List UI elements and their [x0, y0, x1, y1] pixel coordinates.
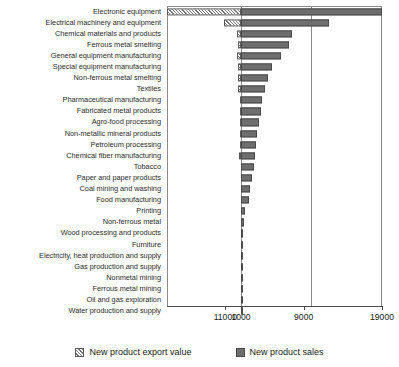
bar-row: Water production and supply: [0, 306, 399, 317]
bar-product-sales: [241, 185, 250, 192]
bar-product-sales: [241, 197, 249, 204]
bar-row: Non-ferrous metal: [0, 217, 399, 228]
category-label: Non-ferrous metal: [103, 218, 161, 226]
bar-product-sales: [241, 141, 256, 148]
bar-row: Nonmetal mining: [0, 272, 399, 283]
category-label: Food manufacturing: [96, 196, 161, 204]
legend-swatch-solid-icon: [236, 348, 245, 357]
bar-export-value: [167, 8, 241, 15]
legend-item-sales: New product sales: [236, 347, 324, 357]
legend-swatch-hatch-icon: [75, 348, 84, 357]
x-tick-label: 1000: [231, 312, 250, 322]
bar-row: Coal mining and washing: [0, 184, 399, 195]
bar-product-sales: [241, 30, 292, 37]
x-tick: [382, 306, 383, 310]
category-label: Tobacco: [134, 163, 161, 171]
bar-row: Electricity, heat production and supply: [0, 250, 399, 261]
x-axis-line: [167, 306, 382, 307]
bar-row: Paper and paper products: [0, 172, 399, 183]
x-tick-label: 19000: [370, 312, 394, 322]
bar-row: Chemical materials and products: [0, 28, 399, 39]
x-tick-label: 9000: [294, 312, 313, 322]
category-label: Paper and paper products: [77, 174, 161, 182]
x-tick: [225, 306, 226, 310]
legend-label-sales: New product sales: [250, 347, 324, 357]
bar-row: Furniture: [0, 239, 399, 250]
category-label: Agro-food processing: [92, 118, 161, 126]
bar-product-sales: [241, 86, 265, 93]
bar-product-sales: [241, 52, 281, 59]
bar-row: Chemical fiber manufacturing: [0, 150, 399, 161]
category-label: Furniture: [132, 241, 161, 249]
bar-product-sales: [241, 8, 382, 15]
bar-row: Pharmaceutical manufacturing: [0, 95, 399, 106]
bar-row: Ferrous metal mining: [0, 283, 399, 294]
bar-product-sales: [241, 41, 289, 48]
bar-chart: Electronic equipmentElectrical machinery…: [0, 0, 399, 367]
bar-product-sales: [241, 274, 243, 281]
category-label: Printing: [136, 207, 161, 215]
bar-row: Fabricated metal products: [0, 106, 399, 117]
bar-product-sales: [241, 252, 243, 259]
category-label: Pharmaceutical manufacturing: [63, 96, 161, 104]
category-label: General equipment manufacturing: [51, 52, 161, 60]
bar-row: Tobacco: [0, 161, 399, 172]
bar-row: Wood processing and products: [0, 228, 399, 239]
category-label: Ferrous metal mining: [93, 285, 161, 293]
plot-area: Electronic equipmentElectrical machinery…: [0, 0, 399, 340]
category-label: Chemical fiber manufacturing: [66, 152, 161, 160]
category-label: Fabricated metal products: [77, 107, 161, 115]
category-label: Textiles: [137, 85, 161, 93]
category-label: Ferrous metal smelting: [87, 41, 161, 49]
bar-product-sales: [241, 108, 261, 115]
bar-product-sales: [241, 174, 252, 181]
bar-product-sales: [241, 75, 268, 82]
bar-row: Electrical machinery and equipment: [0, 17, 399, 28]
category-label: Non-metallic mineral products: [65, 130, 161, 138]
bar-product-sales: [241, 241, 243, 248]
bar-product-sales: [241, 230, 243, 237]
bar-row: Food manufacturing: [0, 195, 399, 206]
bar-row: Electronic equipment: [0, 6, 399, 17]
bar-product-sales: [241, 119, 259, 126]
bar-product-sales: [241, 219, 244, 226]
category-label: Electrical machinery and equipment: [46, 19, 161, 27]
bar-product-sales: [241, 63, 272, 70]
bar-row: Non-ferrous metal smelting: [0, 73, 399, 84]
bar-product-sales: [241, 97, 262, 104]
bar-product-sales: [241, 152, 255, 159]
bar-row: Textiles: [0, 84, 399, 95]
legend-label-export: New product export value: [89, 347, 191, 357]
x-tick: [241, 306, 242, 310]
category-label: Electronic equipment: [93, 8, 161, 16]
category-label: Coal mining and washing: [80, 185, 161, 193]
category-label: Nonmetal mining: [106, 274, 161, 282]
bar-row: Special equipment manufacturing: [0, 61, 399, 72]
bar-product-sales: [241, 163, 254, 170]
category-label: Chemical materials and products: [55, 30, 161, 38]
chart-legend: New product export value New product sal…: [0, 342, 399, 362]
category-label: Gas production and supply: [74, 263, 161, 271]
bar-product-sales: [241, 208, 245, 215]
bar-row: General equipment manufacturing: [0, 50, 399, 61]
bar-product-sales: [241, 19, 329, 26]
category-label: Wood processing and products: [61, 229, 161, 237]
category-label: Water production and supply: [69, 307, 161, 315]
bar-product-sales: [241, 285, 243, 292]
x-tick: [304, 306, 305, 310]
bar-export-value: [224, 19, 241, 26]
bar-product-sales: [241, 130, 257, 137]
bar-product-sales: [241, 296, 243, 303]
category-label: Electricity, heat production and supply: [39, 252, 161, 260]
category-label: Petroleum processing: [91, 141, 161, 149]
bar-row: Printing: [0, 206, 399, 217]
bar-row: Gas production and supply: [0, 261, 399, 272]
category-label: Special equipment manufacturing: [53, 63, 161, 71]
category-label: Non-ferrous metal smelting: [74, 74, 161, 82]
bar-rows: Electronic equipmentElectrical machinery…: [0, 6, 399, 317]
bar-row: Non-metallic mineral products: [0, 128, 399, 139]
bar-row: Oil and gas exploration: [0, 294, 399, 305]
bar-row: Petroleum processing: [0, 139, 399, 150]
bar-row: Agro-food processing: [0, 117, 399, 128]
bar-row: Ferrous metal smelting: [0, 39, 399, 50]
